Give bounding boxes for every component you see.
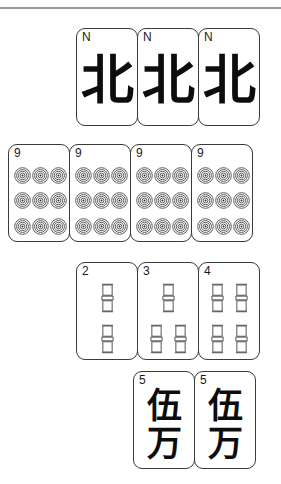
five-characters-tile[interactable]: 5 伍 万 xyxy=(133,371,195,469)
dot-circle-icon xyxy=(50,192,67,209)
north-wind-tile[interactable]: N 北 xyxy=(198,28,260,126)
dot-circle-icon xyxy=(111,167,128,184)
bamboo-face xyxy=(199,277,259,359)
dot-circle-icon xyxy=(93,167,110,184)
dot-circle-icon xyxy=(93,192,110,209)
bamboo-stick-icon xyxy=(211,283,224,313)
dot-circle-icon xyxy=(32,192,49,209)
bamboo-stick-icon xyxy=(101,324,114,354)
two-bamboo-tile[interactable]: 2 xyxy=(76,262,138,360)
dot-circle-icon xyxy=(172,218,189,235)
bamboo-face xyxy=(138,277,198,359)
characters-row: 5 伍 万 5 伍 万 xyxy=(133,371,255,469)
nine-dots-tile[interactable]: 9 xyxy=(69,144,131,242)
dot-circle-icon xyxy=(14,218,31,235)
character-glyph-top: 伍 xyxy=(208,388,243,424)
dot-circle-icon xyxy=(172,192,189,209)
five-characters-glyph: 伍 万 xyxy=(134,380,194,470)
dot-circle-icon xyxy=(215,167,232,184)
dot-circle-icon xyxy=(32,167,49,184)
dot-circle-icon xyxy=(233,167,250,184)
dot-circle-icon xyxy=(111,218,128,235)
dot-circle-icon xyxy=(50,167,67,184)
winds-row: N 北 N 北 N 北 xyxy=(76,28,259,126)
north-wind-tile[interactable]: N 北 xyxy=(76,28,138,126)
bamboo-face xyxy=(77,277,137,359)
five-characters-glyph: 伍 万 xyxy=(195,380,255,470)
three-bamboo-tile[interactable]: 3 xyxy=(137,262,199,360)
dot-circle-icon xyxy=(233,218,250,235)
dot-circle-icon xyxy=(93,218,110,235)
dot-circle-icon xyxy=(154,192,171,209)
dot-circle-icon xyxy=(154,218,171,235)
bamboo-stick-icon xyxy=(211,324,224,354)
dot-circle-icon xyxy=(233,192,250,209)
tile-rank-label: 9 xyxy=(75,147,82,160)
nine-dots-tile[interactable]: 9 xyxy=(191,144,253,242)
five-characters-tile[interactable]: 5 伍 万 xyxy=(194,371,256,469)
bamboo-stick-icon xyxy=(235,324,248,354)
dot-circle-icon xyxy=(215,192,232,209)
mahjong-hand: N 北 N 北 N 北 9 9 9 9 2 xyxy=(0,0,281,484)
dot-circle-icon xyxy=(50,218,67,235)
dot-circle-icon xyxy=(197,167,214,184)
dot-circle-icon xyxy=(75,167,92,184)
dots-face xyxy=(196,163,250,239)
dot-circle-icon xyxy=(215,218,232,235)
bamboo-stick-icon xyxy=(174,324,187,354)
tile-rank-label: 9 xyxy=(197,147,204,160)
dot-circle-icon xyxy=(14,167,31,184)
dot-circle-icon xyxy=(75,218,92,235)
dots-face xyxy=(74,163,128,239)
bamboo-stick-icon xyxy=(101,283,114,313)
character-glyph-top: 伍 xyxy=(147,388,182,424)
character-glyph-bottom: 万 xyxy=(208,426,243,462)
dot-circle-icon xyxy=(75,192,92,209)
dot-circle-icon xyxy=(197,192,214,209)
dot-circle-icon xyxy=(111,192,128,209)
dot-circle-icon xyxy=(136,218,153,235)
four-bamboo-tile[interactable]: 4 xyxy=(198,262,260,360)
character-glyph-bottom: 万 xyxy=(147,426,182,462)
dot-circle-icon xyxy=(136,167,153,184)
dot-circle-icon xyxy=(154,167,171,184)
north-wind-glyph: 北 xyxy=(77,29,137,125)
north-wind-glyph: 北 xyxy=(199,29,259,125)
nine-dots-tile[interactable]: 9 xyxy=(130,144,192,242)
north-wind-tile[interactable]: N 北 xyxy=(137,28,199,126)
bamboo-stick-icon xyxy=(162,283,175,313)
bamboo-row: 2 3 4 xyxy=(76,262,259,360)
bamboo-stick-icon xyxy=(235,283,248,313)
bamboo-stick-icon xyxy=(150,324,163,354)
dots-face xyxy=(13,163,67,239)
dot-circle-icon xyxy=(136,192,153,209)
north-wind-glyph: 北 xyxy=(138,29,198,125)
tile-rank-label: 9 xyxy=(136,147,143,160)
dot-circle-icon xyxy=(172,167,189,184)
dot-circle-icon xyxy=(32,218,49,235)
dot-circle-icon xyxy=(197,218,214,235)
tile-rank-label: 9 xyxy=(14,147,21,160)
dots-row: 9 9 9 9 xyxy=(8,144,252,242)
nine-dots-tile[interactable]: 9 xyxy=(8,144,70,242)
dots-face xyxy=(135,163,189,239)
dot-circle-icon xyxy=(14,192,31,209)
